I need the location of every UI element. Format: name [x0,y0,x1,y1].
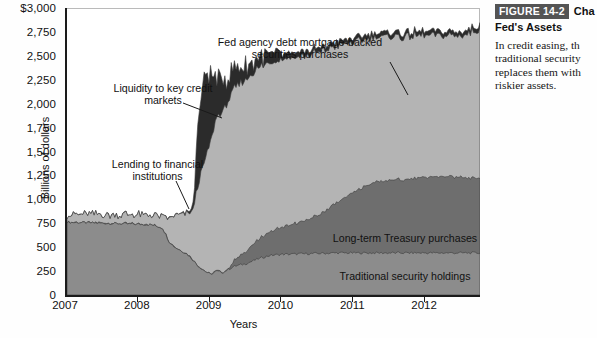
figure-number-badge: FIGURE 14-2 [495,4,569,19]
x-tick-mark [280,295,281,302]
figure-title-line1: Cha [574,5,595,17]
figure-title-line2: Fed's Assets [495,21,597,33]
y-tick-label: 250 [37,265,57,277]
chart-area: $3,0002,7502,5002,2502,0001,7501,5001,25… [0,0,487,338]
plot-frame [65,8,480,297]
figure-root: $3,0002,7502,5002,2502,0001,7501,5001,25… [0,0,597,338]
x-tick-mark [352,295,353,302]
y-axis-title: Billions of dollars [39,93,51,223]
y-tick-label: $3,000 [20,2,56,14]
y-tick-label: 2,750 [27,26,56,38]
x-tick-mark [424,295,425,302]
y-axis: $3,0002,7502,5002,2502,0001,7501,5001,25… [0,0,65,295]
y-tick-label: 500 [37,241,57,253]
figure-caption-text: In credit easing, th traditional securit… [495,39,597,93]
x-tick-label: 2007 [52,299,78,311]
figure-header: FIGURE 14-2 Cha [495,4,597,19]
y-tick-label: 2,250 [27,74,56,86]
x-tick-mark [209,295,210,302]
x-tick-mark [137,295,138,302]
y-tick-label: 2,500 [27,50,56,62]
x-axis-title: Years [0,318,487,330]
stacked-area-plot [67,8,480,295]
caption-panel: FIGURE 14-2 Cha Fed's Assets In credit e… [487,0,597,338]
